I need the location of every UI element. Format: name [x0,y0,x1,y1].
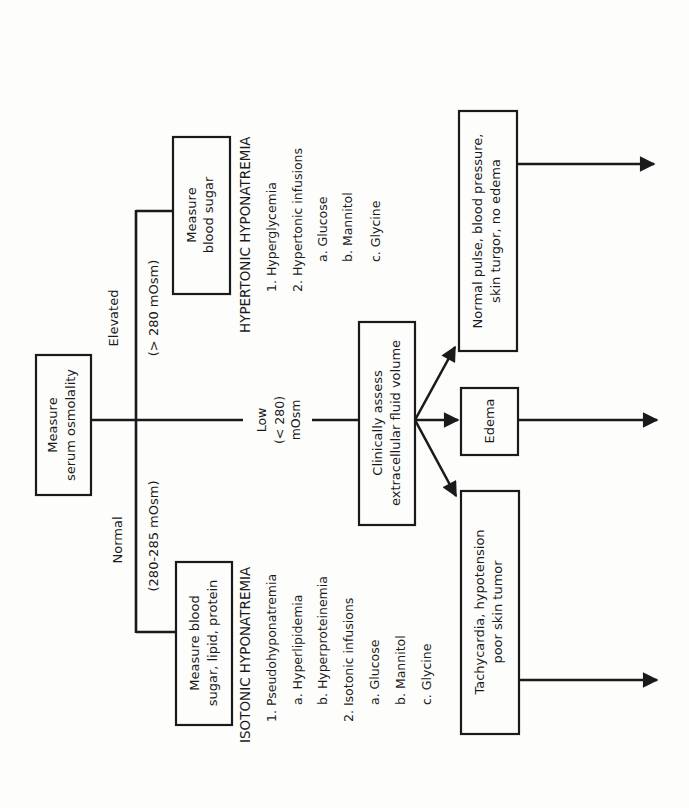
measure-blood-lipid-protein-line-2: sugar, lipid, protein [205,580,220,707]
start-node-serum-osmolality: Measure serum osmolality [36,355,91,495]
measure-blood-lipid-protein-line-1: Measure blood [187,595,202,690]
outcome-hypovolemia-line-2: poor skin tumor [490,560,505,664]
normal-range: (280-285 mOsm) [146,481,161,592]
assess-ecf-volume-box [359,322,415,525]
low-label-line-1: Low [254,408,269,433]
measure-blood-lipid-protein-box [176,562,232,725]
hypertonic-item: 1. Hyperglycemia [264,182,279,292]
measure-blood-sugar-line-2: blood sugar [201,176,216,253]
branch-normal: Normal (280-285 mOsm) Measure blood suga… [110,481,434,743]
isotonic-heading: ISOTONIC HYPONATREMIA [237,566,253,743]
start-box-line-1: Measure [45,397,60,452]
arrow-to-hypovolemia [415,420,456,496]
low-label-line-3: mOsm [288,400,303,441]
hypertonic-item: a. Glucose [315,196,330,262]
connectors [91,210,359,633]
branch-elevated: Elevated (> 280 mOsm) Measure blood suga… [106,136,383,357]
arrow-to-normal-volume [415,347,455,420]
low-label-line-2: (< 280) [272,396,287,444]
normal-label: Normal [110,516,125,563]
elevated-label: Elevated [106,290,121,347]
hypertonic-item: c. Glycine [368,200,383,262]
hypertonic-heading: HYPERTONIC HYPONATREMIA [237,136,253,333]
isotonic-item: a. Hyperlipidemia [290,595,305,705]
hypertonic-item: 2. Hypertonic infusions [290,148,305,292]
start-box-line-2: serum osmolality [63,369,78,481]
isotonic-item: a. Glucose [367,639,382,705]
outcome-edema-label: Edema [482,398,497,443]
isotonic-item: b. Mannitol [393,635,408,705]
outcome-normal-volume-line-1: Normal pulse, blood pressure, [470,134,485,329]
hypertonic-item: b. Mannitol [340,192,355,262]
isotonic-item: c. Glycine [419,643,434,705]
assess-ecf-line-1: Clinically assess [370,370,385,476]
measure-blood-sugar-line-1: Measure [184,187,199,242]
outcome-hypovolemia-line-1: Tachycardia, hypotension [472,529,487,695]
outcome-normal-volume-line-2: skin turgor, no edema [488,159,503,303]
flowchart-canvas: Measure serum osmolality Elevated (> 280… [0,0,689,808]
elevated-range: (> 280 mOsm) [146,260,161,356]
isotonic-item: 2. Isotonic infusions [341,598,356,722]
isotonic-item: b. Hyperproteinemia [315,576,330,705]
assess-ecf-line-2: extracellular fluid volume [388,340,403,506]
isotonic-item: 1. Pseudohyponatremia [264,574,279,722]
